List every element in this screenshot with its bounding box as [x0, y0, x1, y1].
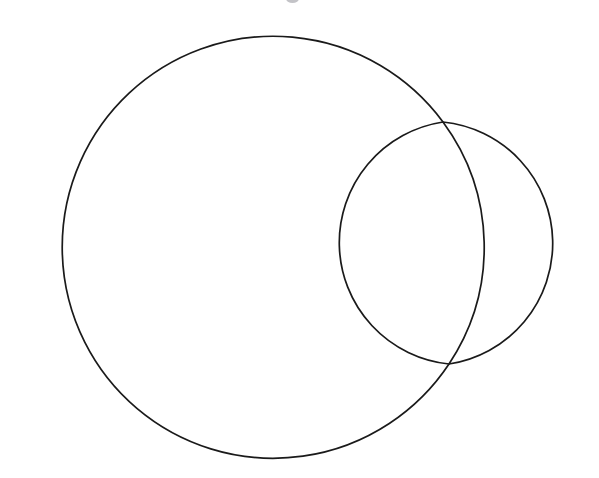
large-circle-outline [62, 36, 484, 458]
diagram-canvas [0, 0, 599, 478]
two-circles-figure [0, 0, 599, 478]
small-circle-outline [339, 122, 552, 364]
